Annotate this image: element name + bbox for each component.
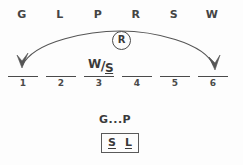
fraction-numerator: W	[88, 57, 101, 71]
sl-block-box: S L	[101, 133, 139, 153]
slot-4: 4	[122, 76, 152, 88]
fraction-denominator: S	[105, 61, 113, 75]
slot-line	[122, 76, 152, 77]
slot-line	[160, 76, 190, 77]
slot-line	[84, 76, 114, 77]
roster-letter-r: R	[128, 8, 144, 21]
slot-1: 1	[8, 76, 38, 88]
circled-r-token: R	[112, 31, 131, 50]
block-letter-s: S	[108, 136, 116, 149]
slot-line	[8, 76, 38, 77]
roster-letter-l: L	[52, 8, 68, 21]
slot-number: 3	[84, 78, 114, 88]
arrowhead-right-icon	[209, 55, 220, 70]
arrowhead-left-icon	[17, 53, 28, 68]
slot-number: 6	[198, 78, 228, 88]
slot-6: 6	[198, 76, 228, 88]
logic-game-diagram: G L P R S W R 1 2 3 4 5 6 W/S G...P	[0, 0, 243, 165]
slot-number: 1	[8, 78, 38, 88]
roster-letter-s: S	[166, 8, 182, 21]
roster-letter-w: W	[204, 8, 220, 21]
gp-chain-annotation: G...P	[99, 113, 131, 126]
roster-letter-g: G	[14, 8, 30, 21]
slot-number: 2	[46, 78, 76, 88]
roster-letter-p: P	[90, 8, 106, 21]
slot-line	[46, 76, 76, 77]
slot-2: 2	[46, 76, 76, 88]
slot-number: 5	[160, 78, 190, 88]
slot-number: 4	[122, 78, 152, 88]
ws-fraction-annotation: W/S	[88, 58, 113, 73]
slot-line	[198, 76, 228, 77]
block-letter-l: L	[125, 136, 132, 149]
slot-5: 5	[160, 76, 190, 88]
slot-3: 3	[84, 76, 114, 88]
